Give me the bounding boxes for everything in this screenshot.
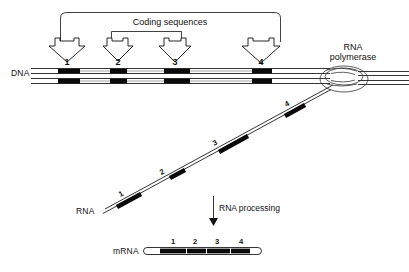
- rna-number-3: 3: [211, 138, 219, 148]
- rna-processing-label: RNA processing: [219, 203, 280, 213]
- mrna-band-2: [187, 249, 206, 254]
- mrna-group: mRNA 1 2 3 4: [113, 237, 262, 256]
- mrna-number-3: 3: [215, 237, 219, 246]
- mrna-band-4: [231, 249, 250, 254]
- polymerase-label-line1: RNA: [343, 42, 362, 52]
- mrna-number-1: 1: [171, 237, 175, 246]
- diagram-canvas: Coding sequences DNA: [0, 0, 409, 272]
- polymerase-label-line2: polymerase: [330, 52, 377, 62]
- mrna-label: mRNA: [113, 246, 139, 256]
- processing-arrow-head-icon: [209, 218, 218, 226]
- dna-band-bottom-3: [164, 79, 190, 84]
- rna-band-2: [170, 170, 185, 178]
- rna-number-4: 4: [283, 98, 292, 108]
- rna-label: RNA: [76, 206, 95, 216]
- rna-band-3: [219, 136, 248, 152]
- dna-number-3: 3: [172, 57, 177, 67]
- rna-transcript-group: RNA 1 2 3 4: [76, 85, 333, 216]
- dna-number-4: 4: [258, 57, 263, 67]
- polymerase-bubble-open: [331, 72, 355, 74]
- dna-band-bottom-1: [58, 79, 80, 84]
- mrna-number-2: 2: [193, 237, 197, 246]
- mrna-number-4: 4: [239, 237, 244, 246]
- dna-band-top-1: [58, 69, 80, 74]
- mrna-band-1: [160, 249, 186, 254]
- dna-band-top-2: [110, 69, 127, 74]
- dna-band-top-4: [252, 69, 272, 74]
- dna-band-bottom-4: [252, 79, 272, 84]
- coding-sequences-label: Coding sequences: [133, 17, 208, 27]
- rna-number-1: 1: [117, 189, 125, 199]
- dna-band-bottom-2: [110, 79, 127, 84]
- dna-band-top-3: [164, 69, 190, 74]
- transcription-diagram: Coding sequences DNA: [0, 0, 409, 272]
- rna-processing-group: RNA processing: [209, 196, 280, 226]
- rna-number-2: 2: [158, 167, 166, 177]
- dna-label: DNA: [11, 68, 30, 78]
- polymerase-inner-ellipse: [325, 68, 363, 85]
- rna-rail-2: [105, 85, 333, 209]
- coding-sequences-group: Coding sequences: [49, 13, 281, 64]
- dna-number-1: 1: [64, 57, 69, 67]
- polymerase-bubble-open-2: [331, 80, 355, 82]
- mrna-band-3: [207, 249, 230, 254]
- dna-number-2: 2: [115, 57, 120, 67]
